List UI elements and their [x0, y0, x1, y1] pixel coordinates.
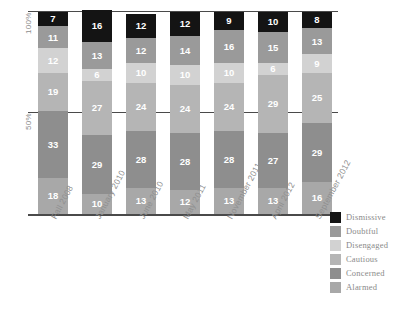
stacked-bar-chart: 7111219331816136272910121210242813121410…: [0, 0, 419, 325]
legend-item[interactable]: Concerned: [330, 266, 416, 280]
bar-segment[interactable]: 19: [38, 73, 68, 111]
legend-label: Cautious: [346, 254, 378, 264]
bar-segment[interactable]: 12: [126, 14, 156, 38]
bar-segment[interactable]: 7: [38, 12, 68, 26]
legend-swatch: [330, 226, 341, 237]
y-axis-label-100: 100%: [24, 12, 33, 34]
bar-segment[interactable]: 15: [258, 32, 288, 62]
y-axis-label-50: 50%: [24, 113, 33, 130]
bar-segment[interactable]: 6: [82, 69, 112, 81]
legend-label: Disengaged: [346, 240, 388, 250]
bar-segment[interactable]: 24: [214, 83, 244, 131]
bar-segment[interactable]: 16: [214, 30, 244, 62]
bar-segment[interactable]: 10: [126, 63, 156, 83]
legend-item[interactable]: Cautious: [330, 252, 416, 266]
bar-segment[interactable]: 12: [38, 48, 68, 72]
legend-swatch: [330, 212, 341, 223]
bar-segment[interactable]: 11: [38, 26, 68, 48]
bar-segment[interactable]: 8: [302, 12, 332, 28]
bar-column[interactable]: 10156292713: [258, 12, 288, 214]
bar-column[interactable]: 8139252916: [302, 12, 332, 214]
bar-segment[interactable]: 10: [170, 65, 200, 85]
bar-segment[interactable]: 29: [82, 135, 112, 194]
bar-segment[interactable]: 28: [170, 133, 200, 190]
x-axis-labels: Fall 2008January 2010June 2010May 2011No…: [38, 216, 332, 286]
legend-item[interactable]: Disengaged: [330, 238, 416, 252]
legend-item[interactable]: Doubtful: [330, 224, 416, 238]
bar-segment[interactable]: 28: [126, 131, 156, 188]
bar-segment[interactable]: 24: [170, 85, 200, 133]
bar-segment[interactable]: 33: [38, 111, 68, 178]
chart-legend: DismissiveDoubtfulDisengagedCautiousConc…: [330, 210, 416, 294]
bar-column[interactable]: 121410242812: [170, 12, 200, 214]
bar-segment[interactable]: 9: [302, 54, 332, 72]
bar-column[interactable]: 71112193318: [38, 12, 68, 214]
bar-segment[interactable]: 27: [82, 81, 112, 136]
bar-segment[interactable]: 29: [302, 123, 332, 182]
legend-item[interactable]: Dismissive: [330, 210, 416, 224]
bar-segment[interactable]: 12: [126, 38, 156, 62]
legend-swatch: [330, 268, 341, 279]
bar-segment[interactable]: 10: [214, 63, 244, 83]
legend-swatch: [330, 240, 341, 251]
bar-segment[interactable]: 28: [214, 131, 244, 188]
legend-label: Doubtful: [346, 226, 378, 236]
bar-segment[interactable]: 9: [214, 12, 244, 30]
bar-segment[interactable]: 27: [258, 133, 288, 188]
bar-segment[interactable]: 24: [126, 83, 156, 131]
legend-label: Alarmed: [346, 282, 377, 292]
legend-swatch: [330, 282, 341, 293]
bar-column[interactable]: 121210242813: [126, 14, 156, 214]
bar-segment[interactable]: 29: [258, 75, 288, 134]
bar-segment[interactable]: 10: [258, 12, 288, 32]
bar-column[interactable]: 91610242813: [214, 12, 244, 214]
bar-segment[interactable]: 14: [170, 36, 200, 64]
bar-segment[interactable]: 12: [170, 12, 200, 36]
bar-segment[interactable]: 13: [82, 42, 112, 68]
legend-swatch: [330, 254, 341, 265]
bar-segment[interactable]: 13: [302, 28, 332, 54]
bar-column[interactable]: 16136272910: [82, 10, 112, 214]
legend-item[interactable]: Alarmed: [330, 280, 416, 294]
bar-segment[interactable]: 6: [258, 63, 288, 75]
legend-label: Concerned: [346, 268, 385, 278]
bar-segment[interactable]: 25: [302, 73, 332, 124]
bar-segment[interactable]: 16: [82, 10, 112, 42]
legend-label: Dismissive: [346, 212, 386, 222]
